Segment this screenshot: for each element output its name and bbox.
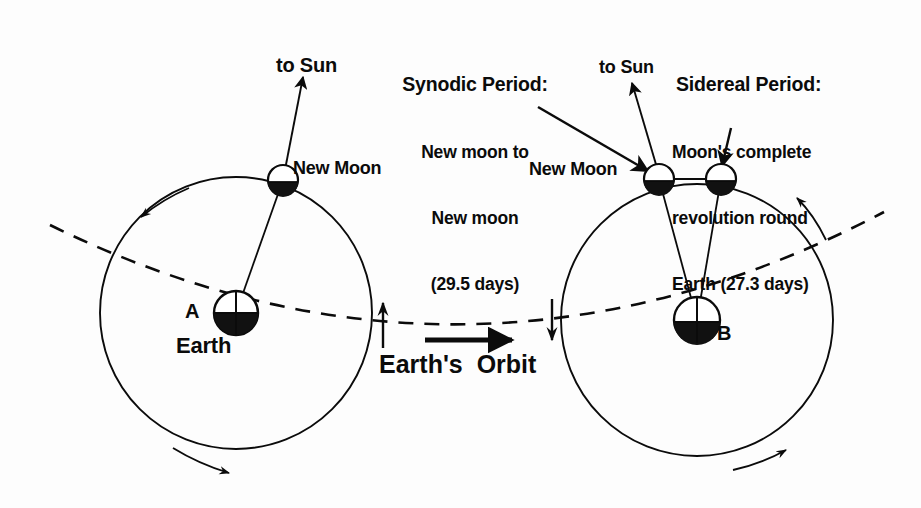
callout-synodic-heading: Synodic Period: [380,72,570,97]
label-new-moon-left: New Moon [293,158,381,179]
label-earths-orbit: Earth's Orbit [379,350,536,380]
callout-sidereal-heading: Sidereal Period: [672,72,884,97]
rotation-arrow-a-top [141,188,189,217]
callout-synodic-line2: New moon [380,207,570,229]
callout-sidereal-line2: revolution round [672,207,884,229]
callout-sidereal-line1: Moon's complete [672,141,884,163]
moon-symbol-b-sidereal [644,164,674,196]
label-to-sun-left: to Sun [276,54,337,78]
label-to-sun-right: to Sun [599,57,654,78]
diagram-canvas: to Sun to Sun New Moon New Moon A Earth … [0,0,921,508]
rotation-arrow-b-bottom [733,450,786,470]
label-position-a: A [185,300,199,324]
earth-symbol-a [214,291,258,335]
rotation-arrow-a-bottom [173,448,229,473]
callout-sidereal-line3: Earth (27.3 days) [672,273,884,295]
callout-synodic-line3: (29.5 days) [380,273,570,295]
callout-synodic-period: Synodic Period: New moon to New moon (29… [380,28,570,339]
label-earth: Earth [176,333,231,359]
callout-synodic-line1: New moon to [380,141,570,163]
callout-sidereal-period: Sidereal Period: Moon's complete revolut… [672,28,884,339]
